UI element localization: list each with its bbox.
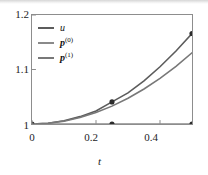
legend-swatch-p0 [38, 42, 54, 44]
data-point-marker [189, 121, 192, 124]
y-tick-label-1: 1 [24, 120, 30, 131]
x-axis-label: t [98, 155, 101, 167]
y-tick-label-1.2: 1.2 [15, 9, 29, 20]
legend-label-p0-sup: (0) [65, 36, 73, 44]
legend-item-p1: p(1) [38, 50, 100, 65]
y-tick-label-1.1: 1.1 [15, 64, 29, 75]
page-scan-band [0, 0, 208, 4]
legend-label-p1: p(1) [60, 51, 73, 63]
legend-label-p0: p(0) [60, 36, 73, 48]
x-tick-label-0.4: 0.4 [140, 132, 162, 143]
x-tick-label-0: 0 [25, 132, 39, 143]
chart-figure: 1.2 1.1 1 0 0.2 0.4 t u p(0) p(1) [0, 0, 208, 175]
legend-swatch-u [38, 27, 54, 29]
legend: u p(0) p(1) [38, 20, 100, 65]
legend-label-u: u [60, 22, 65, 33]
x-tick-label-0.2: 0.2 [80, 132, 102, 143]
legend-item-u: u [38, 20, 100, 35]
legend-label-p1-sup: (1) [65, 51, 73, 59]
legend-swatch-p1 [38, 57, 54, 59]
legend-label-u-text: u [60, 22, 65, 33]
data-point-marker [109, 121, 114, 124]
legend-item-p0: p(0) [38, 35, 100, 50]
data-point-marker [109, 99, 114, 104]
